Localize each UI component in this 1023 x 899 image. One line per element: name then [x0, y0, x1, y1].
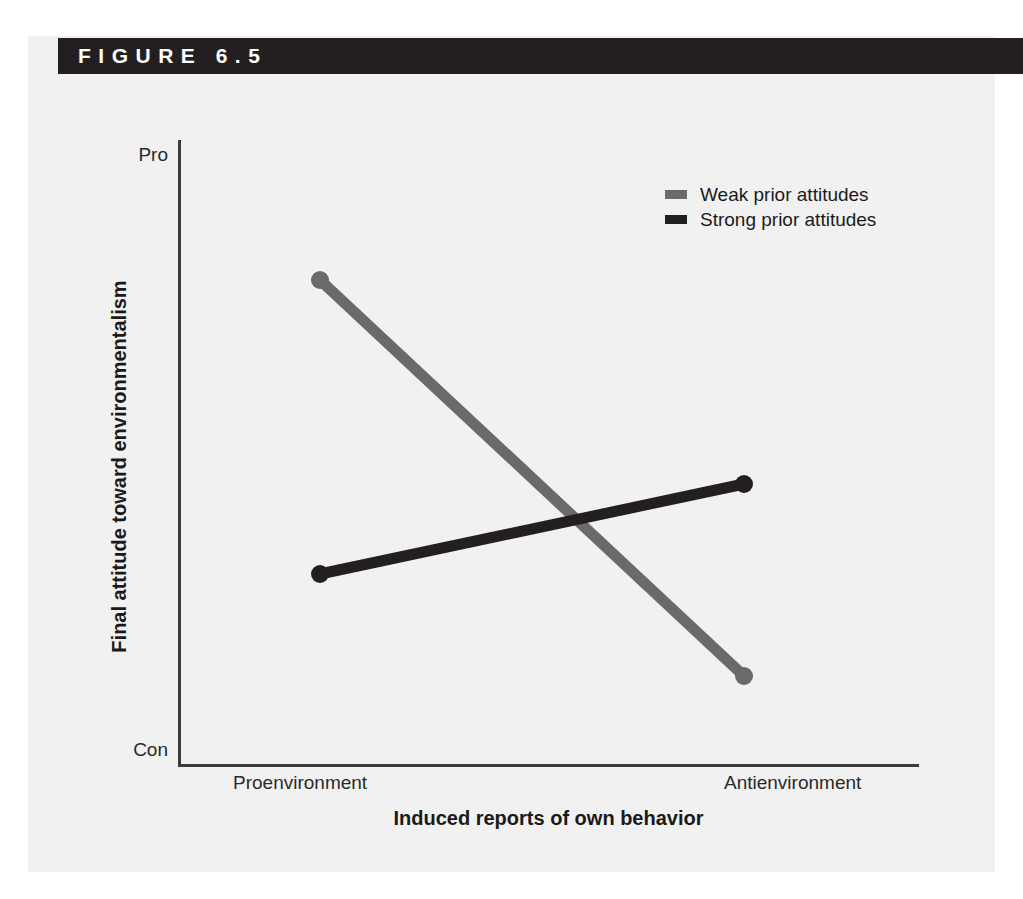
legend-swatch-icon-weak — [665, 190, 687, 199]
y-axis-title: Final attitude toward environmentalism — [108, 252, 131, 682]
series-line-strong-prior-attitudes — [320, 484, 744, 574]
data-point-strong-proenvironment — [311, 565, 329, 583]
legend-label-weak: Weak prior attitudes — [700, 184, 869, 206]
data-point-strong-antienvironment — [735, 475, 753, 493]
chart-plot-area: Pro Con Proenvironment Antienvironment F… — [0, 0, 1023, 899]
legend-item-weak-prior-attitudes: Weak prior attitudes — [665, 182, 965, 207]
x-axis-tick-antienvironment: Antienvironment — [724, 772, 861, 794]
figure-panel: FIGURE 6.5 Pro Con Proenvironment Antien… — [0, 0, 1023, 899]
y-axis-tick-pro: Pro — [48, 144, 180, 166]
y-axis-tick-con: Con — [48, 739, 180, 761]
data-point-weak-proenvironment — [311, 271, 329, 289]
x-axis-title: Induced reports of own behavior — [178, 807, 919, 830]
data-point-weak-antienvironment — [735, 667, 753, 685]
legend-swatch-icon-strong — [665, 215, 687, 224]
x-axis-tick-proenvironment: Proenvironment — [233, 772, 367, 794]
y-axis-line — [178, 140, 181, 767]
legend-label-strong: Strong prior attitudes — [700, 209, 876, 231]
chart-legend: Weak prior attitudes Strong prior attitu… — [665, 182, 965, 232]
legend-item-strong-prior-attitudes: Strong prior attitudes — [665, 207, 965, 232]
x-axis-line — [178, 764, 919, 767]
series-line-weak-prior-attitudes — [320, 280, 744, 676]
